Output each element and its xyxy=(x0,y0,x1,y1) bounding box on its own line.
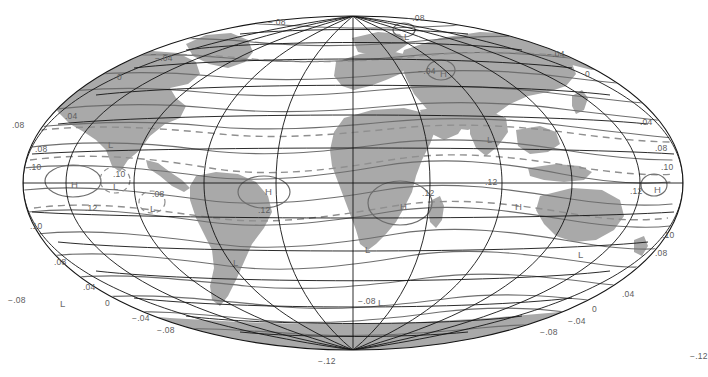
contour-value-label: −.04 xyxy=(132,314,150,323)
contour-value-label: .12 xyxy=(258,206,270,215)
contour-value-label: −.12 xyxy=(318,357,336,366)
contour-value-label: −.08 xyxy=(407,14,425,23)
contour-value-label: −.04 xyxy=(155,54,173,63)
extremum-marker-l: L xyxy=(60,299,65,309)
contour-value-label: 0 xyxy=(117,73,122,82)
contour-value-label: .10 xyxy=(30,222,42,231)
contour-value-label: −.08 xyxy=(157,326,175,335)
extremum-marker-h: H xyxy=(654,185,661,195)
extremum-marker-l: L xyxy=(365,245,370,255)
contour-value-label: .12 xyxy=(485,178,497,187)
contour-value-label: .12 xyxy=(85,204,97,213)
extremum-marker-l: L xyxy=(113,182,118,192)
contour-value-label: .10 xyxy=(29,163,41,172)
extremum-marker-l: L xyxy=(150,204,155,214)
contour-value-label: 0 xyxy=(585,70,590,79)
contour-value-label: .04 xyxy=(640,118,652,127)
extremum-marker-l: L xyxy=(578,250,583,260)
contour-value-label: 0 xyxy=(105,299,110,308)
contour-value-label: .08 xyxy=(35,145,47,154)
land-alaska xyxy=(44,58,86,78)
contour-value-label: .10 xyxy=(661,163,673,172)
extremum-marker-l: L xyxy=(404,32,409,42)
contour-value-label: 0 xyxy=(592,305,597,314)
contour-value-label: .08 xyxy=(54,258,66,267)
contour-value-label: −.04 xyxy=(568,317,586,326)
extremum-marker-h: H xyxy=(265,187,272,197)
contour-value-label: −.08 xyxy=(8,296,26,305)
extremum-marker-h: H xyxy=(71,180,78,190)
contour-value-label: .04 xyxy=(65,112,77,121)
extremum-marker-l: L xyxy=(487,135,492,145)
contour-value-label: −.12 xyxy=(690,352,708,361)
contour-value-label: .12 xyxy=(630,187,642,196)
extremum-marker-l: L xyxy=(233,258,238,268)
contour-value-label: .08 xyxy=(655,144,667,153)
contour-value-label: .10 xyxy=(113,170,125,179)
contour-value-label: −.04 xyxy=(418,67,436,76)
contour-value-label: .04 xyxy=(622,290,634,299)
contour-value-label: .08 xyxy=(655,249,667,258)
contour-value-label: .12 xyxy=(422,189,434,198)
extremum-marker-h: H xyxy=(515,202,522,212)
contour-value-label: .08 xyxy=(12,121,24,130)
extremum-marker-l: L xyxy=(108,140,113,150)
extremum-marker-l: L xyxy=(378,298,383,308)
extremum-marker-h: H xyxy=(400,202,407,212)
extremum-marker-h: H xyxy=(440,69,447,79)
contour-value-label: −.08 xyxy=(358,297,376,306)
contour-value-label: −.04 xyxy=(547,50,565,59)
contour-value-label: .10 xyxy=(662,231,674,240)
contour-value-label: .04 xyxy=(83,283,95,292)
contour-value-label: −.08 xyxy=(540,328,558,337)
contour-value-label: .08 xyxy=(152,190,164,199)
contour-value-label: −.08 xyxy=(268,18,286,27)
